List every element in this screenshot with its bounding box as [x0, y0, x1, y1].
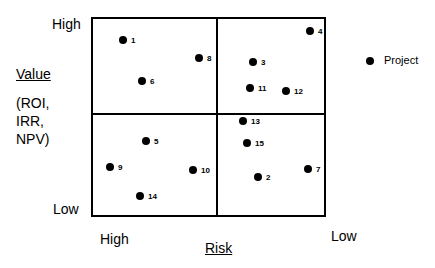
project-point-label: 15 [255, 139, 264, 148]
y-axis-title: Value [16, 66, 51, 82]
x-axis-title: Risk [205, 240, 232, 256]
legend-marker-icon [366, 57, 374, 65]
project-point-label: 14 [148, 192, 157, 201]
project-point-label: 7 [316, 165, 320, 174]
quadrant-horizontal-divider [91, 113, 326, 115]
project-point-marker [189, 166, 197, 174]
x-axis-low-label: Low [331, 228, 357, 244]
y-axis-sub-roi: (ROI, [16, 94, 49, 112]
project-point-marker [136, 192, 144, 200]
project-point-label: 10 [201, 166, 210, 175]
project-point-marker [304, 165, 312, 173]
project-point-label: 11 [258, 84, 266, 93]
y-axis-subtitle: (ROI, IRR, NPV) [16, 94, 49, 148]
project-point-label: 3 [261, 58, 265, 67]
project-point-label: 9 [118, 163, 122, 172]
quadrant-vertical-divider [216, 17, 218, 217]
project-point-label: 8 [207, 54, 211, 63]
x-axis-high-label: High [100, 231, 129, 247]
project-point-label: 13 [251, 117, 260, 126]
project-point-marker [239, 117, 247, 125]
project-point-marker [138, 77, 146, 85]
project-point-label: 4 [318, 27, 322, 36]
project-point-label: 2 [266, 173, 270, 182]
y-axis-sub-npv: NPV) [16, 130, 49, 148]
project-point-marker [246, 84, 254, 92]
quadrant-frame [91, 17, 326, 217]
project-point-marker [243, 139, 251, 147]
project-point-label: 6 [150, 77, 154, 86]
project-point-label: 12 [294, 87, 303, 96]
project-point-marker [119, 36, 127, 44]
project-point-marker [254, 173, 262, 181]
project-point-marker [106, 163, 114, 171]
project-point-marker [306, 27, 314, 35]
project-point-marker [282, 87, 290, 95]
y-axis-sub-irr: IRR, [16, 112, 49, 130]
project-point-label: 1 [131, 36, 135, 45]
legend-label: Project [384, 54, 418, 66]
y-axis-high-label: High [52, 16, 81, 32]
y-axis-low-label: Low [53, 201, 79, 217]
project-point-label: 5 [154, 137, 158, 146]
project-point-marker [249, 58, 257, 66]
project-point-marker [142, 137, 150, 145]
project-point-marker [195, 54, 203, 62]
